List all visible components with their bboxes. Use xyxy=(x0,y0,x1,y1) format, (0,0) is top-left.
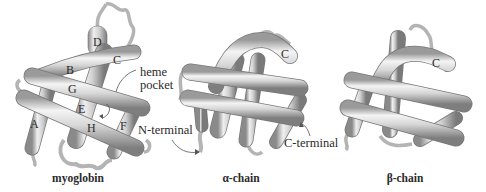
helix-label-h: H xyxy=(87,121,96,135)
n-terminal-label: N-terminal xyxy=(138,123,193,137)
alpha-helix-label-c: C xyxy=(281,47,289,61)
helix-label-d: D xyxy=(93,35,102,49)
heme-pointer-line xyxy=(116,70,136,92)
c-terminal-label: C-terminal xyxy=(284,136,339,150)
helix-label-a: A xyxy=(30,117,39,131)
helix-label-c: C xyxy=(113,53,121,67)
beta-helix-label-c: C xyxy=(432,56,440,70)
myoglobin-structure: D C B G E A H F heme pocket xyxy=(17,4,174,169)
caption-alpha-chain: α-chain xyxy=(222,172,260,184)
helix-label-g: G xyxy=(68,82,77,96)
helix-label-e: E xyxy=(78,102,85,116)
caption-beta-chain: β-chain xyxy=(387,172,424,185)
pocket-label: pocket xyxy=(140,78,174,92)
n-terminal-tail xyxy=(200,130,202,152)
caption-myoglobin: myoglobin xyxy=(52,172,104,185)
loop-c-term xyxy=(144,140,150,152)
helix-label-f: F xyxy=(120,119,127,133)
beta-chain-structure: C xyxy=(346,26,464,150)
heme-label: heme xyxy=(140,65,168,79)
alpha-helix-g xyxy=(190,72,300,88)
globin-structure-figure: D C B G E A H F heme pocket C N- xyxy=(0,0,486,192)
alpha-chain-structure: C N-terminal C-terminal xyxy=(138,32,339,155)
n-terminal-arrow xyxy=(172,140,198,153)
helix-label-b: B xyxy=(66,63,74,77)
